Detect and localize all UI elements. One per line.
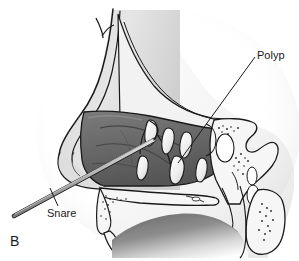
snare-label: Snare (47, 208, 76, 219)
panel-letter-label: B (10, 234, 20, 248)
figure-panel-b: Polyp Snare B (0, 0, 299, 261)
polyp-label: Polyp (257, 50, 285, 61)
nasal-polypectomy-illustration (0, 0, 299, 261)
